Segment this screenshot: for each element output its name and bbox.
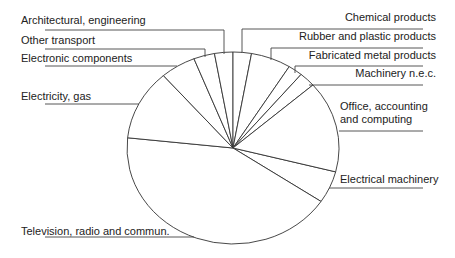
slice-label: Electrical machinery <box>340 173 438 186</box>
slice-label: Machinery n.e.c. <box>330 67 436 80</box>
slice-label: Chemical products <box>300 11 436 24</box>
slice-label: Fabricated metal products <box>290 49 436 62</box>
slice-label: Other transport <box>21 34 95 47</box>
pie-slices <box>127 52 339 244</box>
slice-label: Television, radio and commun. <box>21 225 170 238</box>
slice-label: Office, accountingand computing <box>340 100 428 126</box>
slice-label: Electricity, gas <box>21 90 91 103</box>
slice-label: Electronic components <box>21 52 132 65</box>
slice-label: Architectural, engineering <box>21 14 146 27</box>
slice-label: Rubber and plastic products <box>280 30 436 43</box>
